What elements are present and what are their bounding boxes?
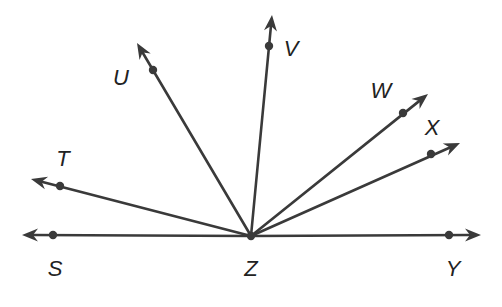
vertex-point-z: [247, 232, 255, 240]
label-v: V: [284, 36, 301, 61]
point-w: [399, 109, 407, 117]
point-t: [56, 182, 64, 190]
ray-zy: [251, 235, 470, 236]
label-w: W: [371, 78, 394, 103]
label-t: T: [56, 146, 71, 171]
points-layer: [49, 42, 453, 240]
point-u: [149, 66, 157, 74]
label-y: Y: [446, 256, 462, 281]
label-z: Z: [243, 256, 259, 281]
point-v: [265, 42, 273, 50]
ray-zt: [42, 182, 251, 236]
arrowhead-icon: [137, 43, 151, 60]
point-x: [427, 150, 435, 158]
ray-zs: [33, 235, 251, 236]
ray-zw: [251, 101, 419, 236]
angle-rays-diagram: STUVWXYZ: [0, 0, 502, 307]
labels-layer: STUVWXYZ: [48, 36, 462, 281]
ray-zx: [251, 147, 450, 236]
label-u: U: [113, 65, 129, 90]
rays-layer: [22, 15, 481, 242]
point-s: [49, 231, 57, 239]
label-x: X: [424, 115, 441, 140]
ray-zv: [251, 26, 271, 236]
label-s: S: [48, 256, 63, 281]
point-y: [445, 231, 453, 239]
ray-zu: [143, 52, 251, 236]
